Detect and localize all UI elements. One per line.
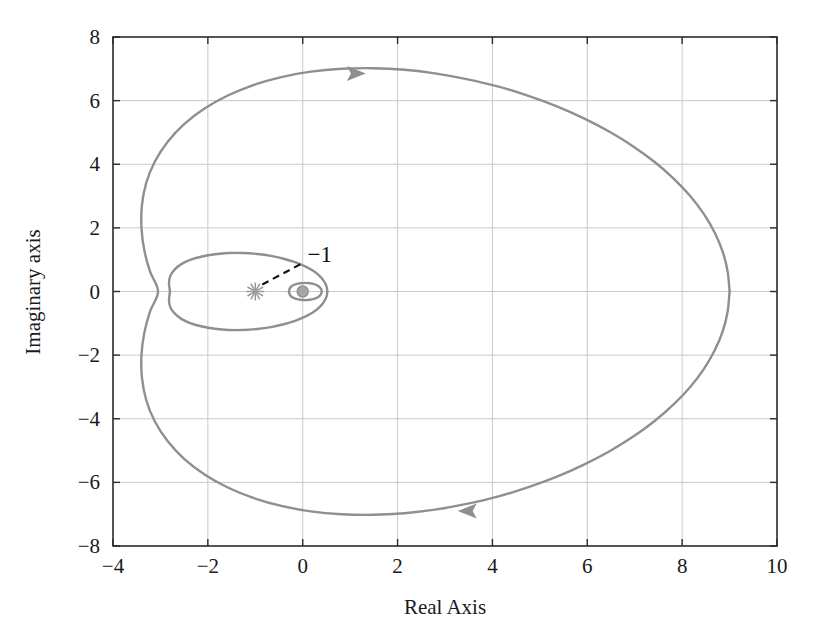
annotation-leader-line bbox=[262, 264, 301, 285]
chart-canvas: −1 −4−2024681086420−2−4−6−8 Real Axis Im… bbox=[0, 0, 822, 639]
y-tick-label: −8 bbox=[78, 534, 100, 558]
y-tick-label: −2 bbox=[78, 343, 100, 367]
annotations-layer: −1 bbox=[246, 66, 476, 518]
origin-dot-marker bbox=[297, 286, 308, 297]
y-tick-label: 6 bbox=[90, 89, 101, 113]
grid-lines bbox=[113, 37, 777, 546]
x-axis-title: Real Axis bbox=[404, 595, 486, 619]
x-tick-label: 8 bbox=[677, 554, 688, 578]
y-tick-label: 0 bbox=[90, 280, 101, 304]
x-tick-label: 10 bbox=[767, 554, 788, 578]
nyquist-plot-figure: −1 −4−2024681086420−2−4−6−8 Real Axis Im… bbox=[0, 0, 822, 639]
x-tick-label: 6 bbox=[582, 554, 593, 578]
tick-labels: −4−2024681086420−2−4−6−8 bbox=[78, 25, 788, 578]
x-tick-label: −2 bbox=[197, 554, 219, 578]
y-tick-label: −4 bbox=[78, 407, 101, 431]
critical-point-label: −1 bbox=[307, 242, 331, 267]
y-tick-label: 2 bbox=[90, 216, 101, 240]
x-tick-label: 4 bbox=[487, 554, 498, 578]
x-tick-label: 0 bbox=[297, 554, 308, 578]
y-tick-label: 4 bbox=[90, 152, 101, 176]
y-axis-title: Imaginary axis bbox=[21, 229, 45, 354]
y-tick-label: 8 bbox=[90, 25, 101, 49]
y-tick-label: −6 bbox=[78, 470, 100, 494]
x-tick-label: −4 bbox=[102, 554, 125, 578]
x-tick-label: 2 bbox=[392, 554, 403, 578]
